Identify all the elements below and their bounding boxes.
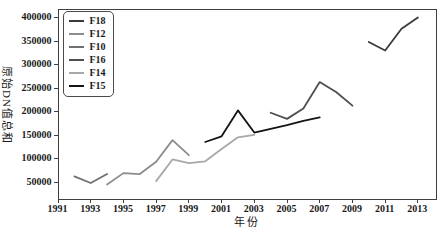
x-axis-title: 年份: [57, 213, 437, 229]
x-tick-mark: [156, 199, 157, 203]
y-tick-label: 150000: [8, 130, 52, 140]
x-tick-label: 2001: [204, 204, 238, 214]
legend-entry-F15: F15: [69, 80, 106, 93]
x-tick-label: 1995: [106, 204, 140, 214]
legend-entry-F14: F14: [69, 67, 106, 80]
y-tick-label: 350000: [8, 36, 52, 46]
plot-area: F18F12F10F16F14F15: [58, 9, 438, 200]
series-line-F10: [74, 174, 107, 183]
x-tick-label: 2013: [400, 204, 434, 214]
x-tick-label: 1999: [171, 204, 205, 214]
legend-line-swatch: [69, 46, 84, 48]
x-tick-mark: [90, 199, 91, 203]
y-tick-label: 200000: [8, 106, 52, 116]
x-tick-label: 1997: [139, 204, 173, 214]
legend-line-swatch: [69, 59, 84, 61]
x-tick-label: 2011: [368, 204, 402, 214]
x-tick-label: 2003: [237, 204, 271, 214]
legend-label: F12: [90, 28, 106, 40]
legend-label: F10: [90, 41, 106, 53]
x-tick-mark: [385, 199, 386, 203]
y-tick-mark: [54, 88, 58, 89]
legend-label: F14: [90, 67, 106, 79]
chart-figure: 原始DN值总和 F18F12F10F16F14F15 5000010000015…: [0, 0, 448, 238]
x-tick-mark: [417, 199, 418, 203]
y-tick-label: 50000: [8, 177, 52, 187]
x-tick-mark: [123, 199, 124, 203]
x-tick-mark: [287, 199, 288, 203]
legend-entry-F10: F10: [69, 41, 106, 54]
y-tick-mark: [54, 135, 58, 136]
x-tick-mark: [352, 199, 353, 203]
x-tick-label: 1991: [41, 204, 75, 214]
legend-entry-F12: F12: [69, 28, 106, 41]
y-tick-mark: [54, 17, 58, 18]
legend: F18F12F10F16F14F15: [63, 11, 114, 97]
legend-entry-F18: F18: [69, 15, 106, 28]
y-tick-mark: [54, 111, 58, 112]
x-tick-mark: [58, 199, 59, 203]
legend-label: F16: [90, 54, 106, 66]
series-line-F18: [368, 17, 417, 50]
legend-line-swatch: [69, 20, 84, 22]
y-tick-mark: [54, 64, 58, 65]
series-line-F12: [107, 140, 189, 184]
y-tick-mark: [54, 182, 58, 183]
y-tick-label: 300000: [8, 59, 52, 69]
y-tick-mark: [54, 41, 58, 42]
x-tick-label: 2005: [270, 204, 304, 214]
legend-entry-F16: F16: [69, 54, 106, 67]
y-tick-label: 250000: [8, 83, 52, 93]
x-tick-label: 1993: [73, 204, 107, 214]
x-tick-mark: [319, 199, 320, 203]
y-tick-mark: [54, 158, 58, 159]
x-tick-mark: [221, 199, 222, 203]
legend-line-swatch: [69, 33, 84, 35]
legend-label: F18: [90, 15, 106, 27]
x-tick-mark: [188, 199, 189, 203]
x-tick-label: 2007: [302, 204, 336, 214]
legend-line-swatch: [69, 85, 84, 87]
series-line-F15: [205, 110, 320, 142]
legend-line-swatch: [69, 72, 84, 74]
y-tick-label: 400000: [8, 12, 52, 22]
legend-label: F15: [90, 80, 106, 92]
y-tick-label: 100000: [8, 153, 52, 163]
x-tick-label: 2009: [335, 204, 369, 214]
series-line-F16: [270, 82, 352, 119]
plot-lines: [59, 10, 437, 199]
x-tick-mark: [254, 199, 255, 203]
